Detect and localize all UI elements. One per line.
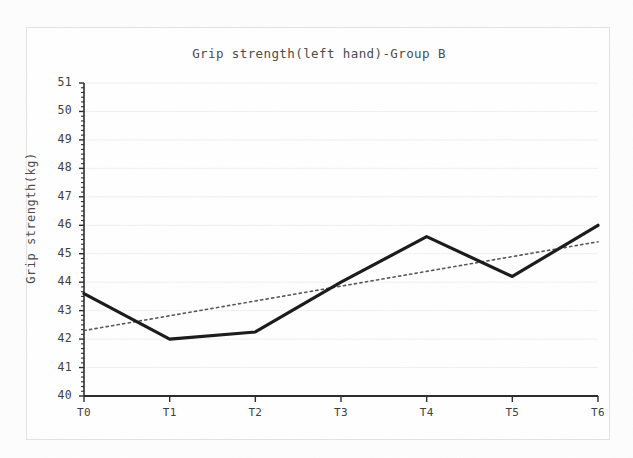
- y-tick-label: 51: [46, 75, 72, 89]
- chart-card: Grip strength(left hand)-Group B Grip st…: [26, 27, 610, 440]
- gridlines: [84, 83, 598, 396]
- x-tick-label: T3: [321, 406, 361, 419]
- x-tick-label: T2: [235, 406, 275, 419]
- y-tick-label: 43: [46, 303, 72, 317]
- y-tick-label: 41: [46, 360, 72, 374]
- trend-line-series: [84, 242, 598, 331]
- y-tick-label: 47: [46, 189, 72, 203]
- x-tick-label: T5: [492, 406, 532, 419]
- y-tick-label: 44: [46, 274, 72, 288]
- x-tick-label: T4: [407, 406, 447, 419]
- y-tick-label: 50: [46, 103, 72, 117]
- y-tick-label: 42: [46, 331, 72, 345]
- y-tick-label: 40: [46, 388, 72, 402]
- y-tick-label: 46: [46, 217, 72, 231]
- plot-area: [27, 28, 611, 441]
- x-tick-label: T6: [578, 406, 618, 419]
- x-tick-label: T1: [150, 406, 190, 419]
- y-tick-label: 49: [46, 132, 72, 146]
- y-tick-label: 45: [46, 246, 72, 260]
- chart-figure: Grip strength(left hand)-Group B Grip st…: [0, 0, 633, 458]
- x-tick-label: T0: [64, 406, 104, 419]
- y-tick-label: 48: [46, 160, 72, 174]
